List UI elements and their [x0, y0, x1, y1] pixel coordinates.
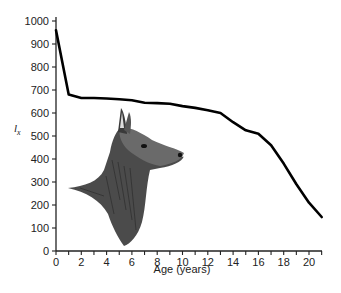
y-tick-label: 1000	[25, 15, 49, 27]
y-tick-label: 600	[31, 107, 49, 119]
x-tick-label: 6	[129, 256, 135, 268]
y-tick-label: 200	[31, 199, 49, 211]
x-tick-label: 18	[278, 256, 290, 268]
y-axis-title: lx	[14, 122, 21, 137]
y-tick-label: 900	[31, 38, 49, 50]
y-tick-label: 700	[31, 84, 49, 96]
deer-illustration	[68, 108, 184, 246]
y-tick-label: 800	[31, 61, 49, 73]
x-tick-label: 16	[252, 256, 264, 268]
x-tick-label: 2	[78, 256, 84, 268]
x-axis-title: Age (years)	[154, 263, 211, 275]
y-tick-label: 300	[31, 176, 49, 188]
x-tick-label: 14	[227, 256, 239, 268]
y-tick-label: 100	[31, 222, 49, 234]
x-tick-label: 0	[53, 256, 59, 268]
survivorship-chart: 01002003004005006007008009001000 0246810…	[0, 0, 341, 293]
y-tick-label: 0	[43, 245, 49, 257]
x-tick-label: 20	[303, 256, 315, 268]
y-tick-label: 400	[31, 153, 49, 165]
y-tick-label: 500	[31, 130, 49, 142]
y-ticks: 01002003004005006007008009001000	[25, 15, 56, 257]
x-tick-label: 4	[104, 256, 110, 268]
